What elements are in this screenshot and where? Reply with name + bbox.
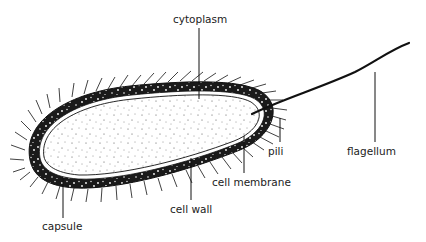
label-cell-membrane: cell membrane <box>212 176 291 188</box>
label-flagellum: flagellum <box>347 145 396 157</box>
label-cell-wall: cell wall <box>170 203 212 215</box>
label-capsule: capsule <box>42 220 82 232</box>
flagellum <box>252 43 409 114</box>
label-pili: pili <box>268 145 283 157</box>
label-cytoplasm: cytoplasm <box>173 13 227 25</box>
bacterium-diagram <box>0 0 426 242</box>
